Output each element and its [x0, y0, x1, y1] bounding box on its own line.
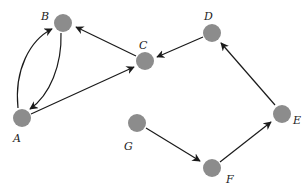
edge-e-to-d — [221, 43, 275, 105]
edge-d-to-c — [157, 37, 203, 57]
edge-b-to-a — [30, 33, 61, 109]
node-b — [54, 14, 72, 32]
label-g: G — [124, 140, 133, 153]
node-a — [13, 109, 31, 127]
node-e — [273, 105, 291, 123]
edge-g-to-f — [146, 128, 200, 161]
node-g — [128, 114, 146, 132]
node-d — [203, 24, 221, 42]
edge-f-to-e — [220, 122, 271, 162]
node-c — [136, 52, 154, 70]
label-d: D — [203, 10, 213, 23]
label-b: B — [40, 10, 49, 23]
label-a: A — [12, 132, 21, 145]
edge-c-to-b — [76, 27, 136, 56]
node-f — [203, 159, 221, 177]
label-e: E — [292, 114, 301, 127]
label-f: F — [225, 173, 234, 186]
graph-canvas: A B C D E F G — [0, 0, 307, 191]
label-c: C — [139, 39, 148, 52]
edge-a-to-b — [17, 29, 52, 108]
